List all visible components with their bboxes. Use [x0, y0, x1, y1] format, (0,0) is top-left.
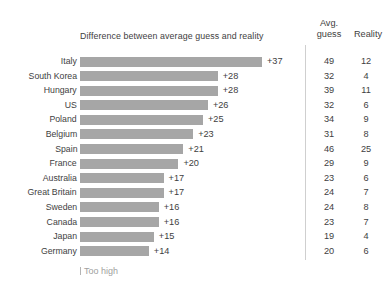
bar — [80, 202, 159, 212]
column-header-avg-guess: Avg. guess — [313, 18, 345, 40]
country-label: Japan — [53, 231, 77, 241]
chart-row: South Korea+28324 — [0, 70, 391, 85]
chart-row: Canada+16237 — [0, 216, 391, 231]
bar-track — [80, 115, 203, 125]
chart-row: Belgium+23318 — [0, 128, 391, 143]
bar-value-label: +16 — [164, 202, 180, 212]
chart-row: Spain+214625 — [0, 143, 391, 158]
bar-track — [80, 57, 262, 67]
chart-container: Difference between average guess and rea… — [0, 0, 391, 292]
chart-row: Sweden+16248 — [0, 201, 391, 216]
column-header-reality: Reality — [348, 29, 388, 40]
cell-reality: 11 — [350, 85, 382, 95]
bar-track — [80, 71, 218, 81]
country-label: Canada — [46, 217, 77, 227]
cell-avg-guess: 32 — [313, 100, 345, 110]
chart-row: Japan+15194 — [0, 230, 391, 245]
bar-value-label: +23 — [198, 129, 214, 139]
cell-reality: 6 — [350, 173, 382, 183]
bar-track — [80, 217, 159, 227]
chart-row: US+26326 — [0, 99, 391, 114]
country-label: US — [65, 100, 77, 110]
country-label: Sweden — [45, 202, 77, 212]
cell-avg-guess: 46 — [313, 144, 345, 154]
cell-reality: 8 — [350, 129, 382, 139]
cell-reality: 7 — [350, 187, 382, 197]
bar-track — [80, 202, 159, 212]
bar-track — [80, 246, 149, 256]
chart-row: Germany+14206 — [0, 245, 391, 260]
cell-reality: 25 — [350, 144, 382, 154]
cell-reality: 8 — [350, 202, 382, 212]
cell-avg-guess: 24 — [313, 187, 345, 197]
cell-avg-guess: 23 — [313, 217, 345, 227]
column-header-avg-line1: Avg. — [313, 18, 345, 29]
bar — [80, 57, 262, 67]
bar-value-label: +37 — [267, 56, 283, 66]
country-label: France — [50, 158, 77, 168]
cell-reality: 9 — [350, 114, 382, 124]
bar — [80, 115, 203, 125]
chart-rows: Italy+374912South Korea+28324Hungary+283… — [0, 55, 391, 259]
country-label: South Korea — [28, 71, 77, 81]
bar-track — [80, 188, 164, 198]
chart-row: Italy+374912 — [0, 55, 391, 70]
column-header-avg-line2: guess — [313, 29, 345, 40]
bar — [80, 144, 183, 154]
cell-avg-guess: 20 — [313, 246, 345, 256]
chart-row: Poland+25349 — [0, 113, 391, 128]
country-label: Spain — [55, 144, 77, 154]
chart-row: France+20299 — [0, 157, 391, 172]
bar-value-label: +28 — [223, 85, 239, 95]
legend-label-too-high: Too high — [84, 266, 118, 276]
bar — [80, 159, 178, 169]
country-label: Poland — [50, 114, 77, 124]
cell-reality: 9 — [350, 158, 382, 168]
country-label: Belgium — [45, 129, 77, 139]
cell-reality: 4 — [350, 71, 382, 81]
bar — [80, 173, 164, 183]
bar-value-label: +20 — [183, 158, 199, 168]
cell-reality: 7 — [350, 217, 382, 227]
chart-row: Australia+17236 — [0, 172, 391, 187]
bar-track — [80, 129, 193, 139]
bar-value-label: +26 — [213, 100, 229, 110]
bar-value-label: +17 — [169, 173, 185, 183]
bar-track — [80, 100, 208, 110]
country-label: Hungary — [44, 85, 77, 95]
cell-avg-guess: 19 — [313, 231, 345, 241]
cell-reality: 6 — [350, 100, 382, 110]
cell-reality: 12 — [350, 56, 382, 66]
bar — [80, 232, 154, 242]
bar — [80, 71, 218, 81]
cell-avg-guess: 49 — [313, 56, 345, 66]
chart-row: Hungary+283911 — [0, 84, 391, 99]
legend: Too high — [80, 266, 118, 276]
bar-track — [80, 173, 164, 183]
cell-avg-guess: 29 — [313, 158, 345, 168]
country-label: Germany — [41, 246, 77, 256]
bar — [80, 100, 208, 110]
bar-value-label: +15 — [159, 231, 175, 241]
legend-swatch-icon — [80, 267, 81, 275]
bar-value-label: +16 — [164, 217, 180, 227]
bar-track — [80, 86, 218, 96]
country-label: Australia — [43, 173, 77, 183]
bar-value-label: +14 — [154, 246, 170, 256]
chart-row: Great Britain+17247 — [0, 186, 391, 201]
cell-avg-guess: 34 — [313, 114, 345, 124]
chart-title: Difference between average guess and rea… — [80, 31, 264, 41]
country-label: Italy — [61, 56, 77, 66]
cell-reality: 6 — [350, 246, 382, 256]
bar-value-label: +17 — [169, 187, 185, 197]
cell-avg-guess: 39 — [313, 85, 345, 95]
bar — [80, 188, 164, 198]
bar — [80, 129, 193, 139]
cell-avg-guess: 31 — [313, 129, 345, 139]
bar-value-label: +28 — [223, 71, 239, 81]
bar-value-label: +21 — [188, 144, 204, 154]
bar-track — [80, 159, 178, 169]
cell-reality: 4 — [350, 231, 382, 241]
cell-avg-guess: 32 — [313, 71, 345, 81]
cell-avg-guess: 24 — [313, 202, 345, 212]
